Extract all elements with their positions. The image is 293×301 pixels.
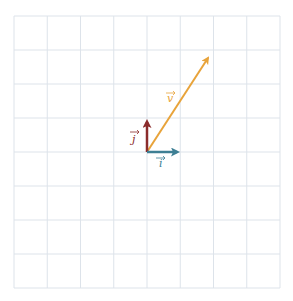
svg-text:i: i [159,157,163,170]
vector-j: j [129,122,147,152]
vector-v-label: v [166,91,175,105]
vector-j-label: j [129,130,139,146]
svg-text:j: j [129,133,136,146]
vector-i-label: i [156,156,165,170]
vector-diagram: v j i [0,0,293,301]
svg-text:v: v [167,92,174,105]
vector-i: i [147,152,177,170]
vector-v: v [147,58,208,152]
